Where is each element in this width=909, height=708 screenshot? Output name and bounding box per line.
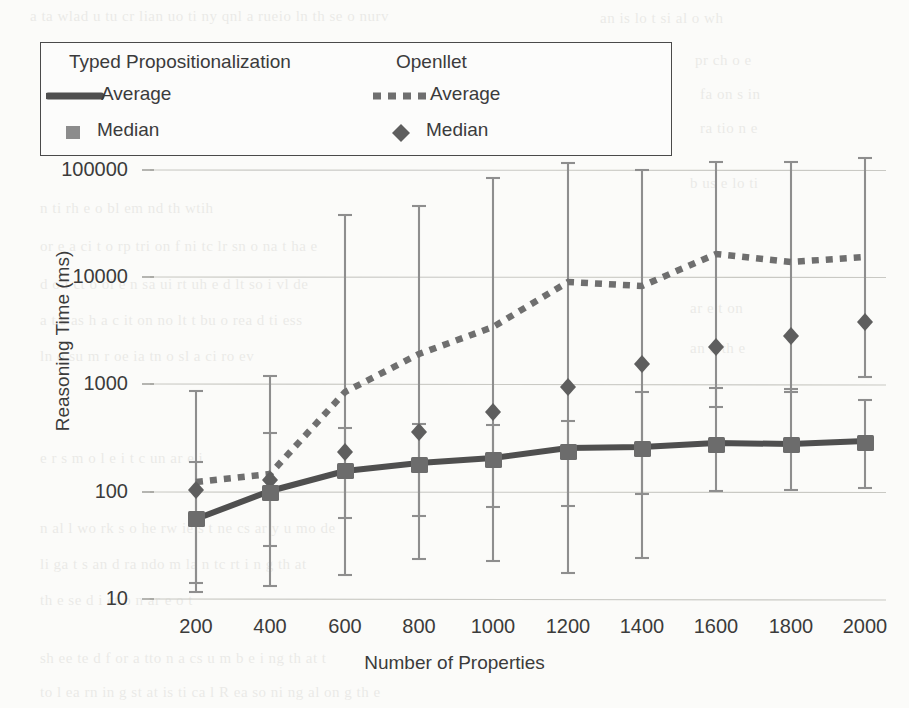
y-axis-title: Reasoning Time (ms) xyxy=(52,226,74,456)
series-typed-propositionalization-median-markers xyxy=(188,435,874,527)
y-tick-label-100000: 100000 xyxy=(8,158,128,181)
y-tick-marks xyxy=(142,170,154,599)
legend-solid-line-icon xyxy=(46,87,106,105)
series-openllet-average xyxy=(196,254,865,482)
x-tick-label-800: 800 xyxy=(389,615,449,638)
x-tick-label-400: 400 xyxy=(240,615,300,638)
legend-label-typed-average: Average xyxy=(101,83,171,105)
legend-label-openllet-median: Median xyxy=(426,119,488,141)
x-tick-label-1800: 1800 xyxy=(761,615,821,638)
x-tick-label-600: 600 xyxy=(315,615,375,638)
legend-group-title-right: Openllet xyxy=(396,51,467,73)
x-axis-title: Number of Properties xyxy=(0,652,909,674)
chart-canvas: .grid{stroke:#c9c9c4;stroke-width:1.2;} … xyxy=(0,0,909,708)
x-tick-label-1600: 1600 xyxy=(686,615,746,638)
openllet-error-bars xyxy=(189,158,872,592)
chart-legend: Typed Propositionalization Openllet Aver… xyxy=(40,42,672,156)
y-tick-label-10: 10 xyxy=(8,587,128,610)
x-tick-label-1400: 1400 xyxy=(612,615,672,638)
legend-label-typed-median: Median xyxy=(97,119,159,141)
x-tick-label-2000: 2000 xyxy=(835,615,895,638)
y-tick-label-100: 100 xyxy=(8,480,128,503)
legend-dotted-line-icon xyxy=(371,87,433,105)
series-openllet-median-markers xyxy=(188,313,873,499)
x-tick-label-1200: 1200 xyxy=(538,615,598,638)
legend-group-title-left: Typed Propositionalization xyxy=(69,51,291,73)
x-tick-label-200: 200 xyxy=(166,615,226,638)
series-typed-propositionalization-average xyxy=(196,441,865,519)
gridlines xyxy=(150,170,886,600)
legend-diamond-icon xyxy=(389,121,413,143)
legend-label-openllet-average: Average xyxy=(430,83,500,105)
legend-square-icon xyxy=(63,122,85,142)
x-tick-label-1000: 1000 xyxy=(463,615,523,638)
